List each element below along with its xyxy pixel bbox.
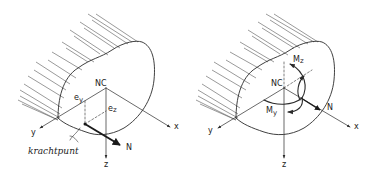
left-label-axis-z: z	[104, 160, 108, 169]
left-ez-dashed	[85, 111, 106, 124]
right-cross-section	[236, 41, 335, 134]
right-label-mz: Mz	[293, 55, 304, 65]
left-label-force-n: N	[126, 143, 132, 152]
right-label-nc: NC	[271, 79, 283, 88]
diagram-canvas: NC ey ez x y z N krachtpunt	[0, 0, 377, 177]
right-label-my: My	[266, 106, 277, 117]
left-label-ez: ez	[108, 104, 117, 114]
left-beam-hatching	[18, 14, 138, 120]
left-krachtpunt-leader	[70, 128, 80, 142]
left-label-ey: ey	[74, 93, 83, 104]
right-force-n-arrow	[301, 98, 320, 110]
left-label-axis-x: x	[174, 122, 179, 131]
right-label-axis-y: y	[208, 126, 213, 135]
left-label-nc: NC	[95, 79, 107, 88]
left-figure: NC ey ez x y z N krachtpunt	[18, 14, 179, 169]
left-force-n-arrow	[85, 124, 120, 145]
right-figure: NC Mz My x y z N	[196, 14, 359, 169]
right-label-axis-z: z	[282, 160, 286, 169]
right-moment-my-arc	[264, 98, 302, 104]
right-dashed-diagonal	[284, 70, 312, 88]
right-label-axis-x: x	[354, 122, 359, 131]
right-label-force-n: N	[327, 103, 333, 112]
left-label-krachtpunt: krachtpunt	[28, 146, 79, 156]
left-label-axis-y: y	[31, 128, 36, 137]
